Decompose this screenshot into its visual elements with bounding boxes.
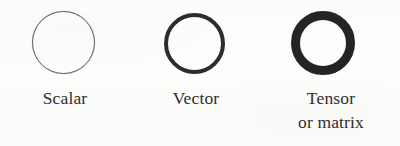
medium-circle-outline-icon	[164, 13, 225, 74]
tensor-label-line-2: or matrix	[262, 111, 400, 134]
thick-circle-outline-icon	[291, 11, 355, 75]
scalar-glyph-area	[0, 0, 130, 80]
tensor-label-line-1: Tensor	[262, 87, 400, 110]
figure-item-tensor: Tensor or matrix	[262, 0, 400, 146]
scalar-label-line-1: Scalar	[0, 87, 130, 110]
vector-label-line-1: Vector	[131, 87, 261, 110]
scalar-label: Scalar	[0, 87, 130, 110]
tensor-glyph-area	[262, 0, 400, 80]
tensor-label: Tensor or matrix	[262, 87, 400, 134]
figure-item-scalar: Scalar	[0, 0, 130, 146]
vector-glyph-area	[131, 0, 261, 80]
thin-circle-outline-icon	[32, 11, 95, 74]
figure-item-vector: Vector	[131, 0, 261, 146]
vector-label: Vector	[131, 87, 261, 110]
tensor-rank-figure: Scalar Vector Tensor or matrix	[0, 0, 400, 146]
